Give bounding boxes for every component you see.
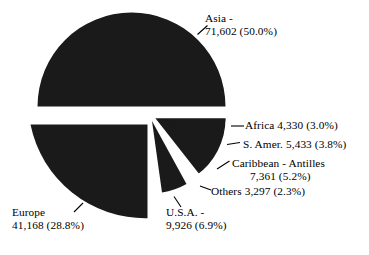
slice-label-africa-line1: Africa 4,330 (3.0%) xyxy=(245,119,338,132)
slice-label-europe: Europe 41,168 (28.8%) xyxy=(12,206,84,232)
slice-label-usa: U.S.A. - 9,926 (6.9%) xyxy=(166,206,227,232)
slice-label-usa-line1: U.S.A. - xyxy=(166,206,227,219)
slice-label-others-line1: Others 3,297 (2.3%) xyxy=(211,185,305,198)
slice-label-asia-line1: Asia - xyxy=(205,12,277,25)
slice-label-africa: Africa 4,330 (3.0%) xyxy=(245,119,338,132)
slice-label-caribbean-line2: 7,361 (5.2%) xyxy=(232,170,325,183)
leader-line-caribbean xyxy=(217,161,230,169)
slice-label-usa-line2: 9,926 (6.9%) xyxy=(166,219,227,232)
leader-line-others xyxy=(200,186,211,190)
slice-label-samer: S. Amer. 5,433 (3.8%) xyxy=(243,138,346,151)
pie-chart: Asia - 71,602 (50.0%) Africa 4,330 (3.0%… xyxy=(0,0,369,255)
pie-slice-asia[interactable] xyxy=(38,13,226,107)
slice-label-europe-line2: 41,168 (28.8%) xyxy=(12,219,84,232)
pie-slice-europe[interactable] xyxy=(31,125,148,219)
slice-label-samer-line1: S. Amer. 5,433 (3.8%) xyxy=(243,138,346,151)
slice-label-caribbean-line1: Caribbean - Antilles xyxy=(232,157,325,170)
slice-label-others: Others 3,297 (2.3%) xyxy=(211,185,305,198)
slice-label-europe-line1: Europe xyxy=(12,206,84,219)
leader-line-samer xyxy=(227,143,240,145)
slice-label-asia: Asia - 71,602 (50.0%) xyxy=(205,12,277,38)
slice-label-caribbean: Caribbean - Antilles 7,361 (5.2%) xyxy=(232,157,325,183)
slice-label-asia-line2: 71,602 (50.0%) xyxy=(205,25,277,38)
